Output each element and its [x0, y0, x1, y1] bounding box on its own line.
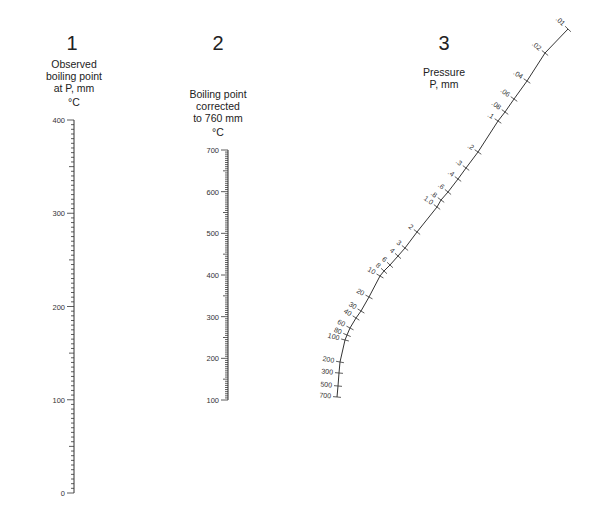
scale-3-tick-label: .4	[447, 169, 456, 178]
scale-3-tick-label: 300	[321, 368, 333, 376]
scale-1-tick-label: 400	[52, 116, 65, 125]
scale-1-tick-label: 0	[61, 489, 65, 498]
scale-1-tick-label: 300	[52, 209, 65, 218]
scale-2-tick-label: 100	[206, 396, 219, 405]
scale-3-tick-label: .06	[499, 87, 511, 98]
scale-3-tick-label: 4	[389, 246, 397, 254]
scale-3-tick-label: 700	[319, 391, 331, 399]
scale-2-tick-label: 300	[206, 313, 219, 322]
scale-2-tick-label: 700	[206, 146, 219, 155]
scale-1-tick-label: 100	[52, 396, 65, 405]
scale-2-tick-label: 400	[206, 271, 219, 280]
scale-3-tick-label: 100	[327, 332, 340, 342]
scale-3-tick-label: .08	[491, 100, 503, 111]
scale-1-tick-label: 200	[52, 303, 65, 312]
scale-3-tick-label: .04	[512, 69, 524, 80]
scale-3-tick-label: 200	[322, 355, 335, 364]
scale-3-tick-label: 20	[355, 287, 365, 297]
scale-3-tick-label: .2	[467, 142, 476, 151]
scale-2-tick-label: 600	[206, 188, 219, 197]
scale-2-tick-label: 200	[206, 354, 219, 363]
scale-3-tick-label: 3	[395, 239, 402, 247]
scale-3-tick-label: .1	[487, 111, 496, 120]
nomograph-scales: 0100200300400100200300400500600700.01.02…	[0, 0, 604, 526]
scale-3-tick-label: 2	[407, 223, 414, 231]
scale-3-tick-label: .02	[531, 40, 543, 52]
scale-3-tick-label: .3	[455, 158, 464, 167]
scale-3-tick-label: 500	[320, 381, 332, 389]
scale-3-tick-label: .01	[555, 15, 567, 27]
scale-3-tick-label: 6	[381, 255, 389, 263]
scale-3-tick-label: .6	[437, 181, 446, 190]
scale-3-axis	[337, 29, 568, 397]
scale-2-tick-label: 500	[206, 229, 219, 238]
